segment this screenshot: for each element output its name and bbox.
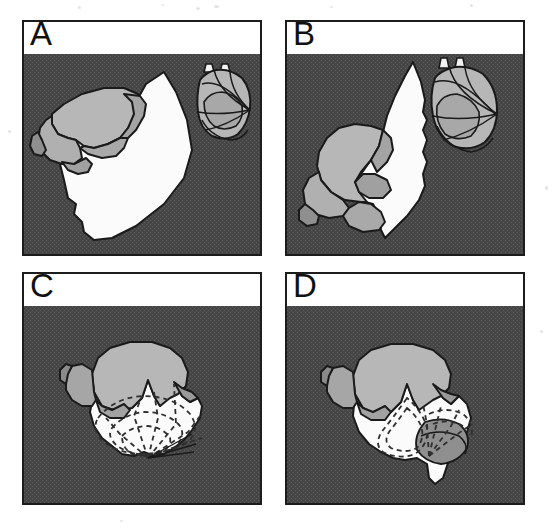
panel-d-label: D bbox=[293, 272, 317, 303]
figure-container: A bbox=[0, 0, 560, 530]
panel-c-illustration bbox=[24, 306, 260, 503]
panel-a-label: A bbox=[30, 20, 52, 51]
panel-d-header: D bbox=[287, 274, 523, 306]
panel-b-header: B bbox=[287, 22, 523, 54]
panel-a: A bbox=[22, 20, 262, 256]
panel-b-side-projection-left bbox=[439, 58, 449, 68]
panel-b-label: B bbox=[293, 20, 315, 51]
panel-b-canvas bbox=[287, 54, 523, 254]
panel-c-header: C bbox=[24, 274, 260, 306]
panel-d-canvas bbox=[287, 306, 523, 503]
panel-a-canvas bbox=[24, 54, 260, 254]
panel-c-label: C bbox=[30, 272, 54, 303]
panel-b-illustration bbox=[287, 54, 523, 254]
panel-b: B bbox=[285, 20, 525, 256]
panel-c-canvas bbox=[24, 306, 260, 503]
panel-d-illustration bbox=[287, 306, 523, 503]
panel-c: C bbox=[22, 272, 262, 505]
panel-d: D bbox=[285, 272, 525, 505]
panel-d-mid-gray-wedge bbox=[416, 419, 468, 464]
panel-a-header: A bbox=[24, 22, 260, 54]
panel-a-illustration bbox=[24, 54, 260, 254]
